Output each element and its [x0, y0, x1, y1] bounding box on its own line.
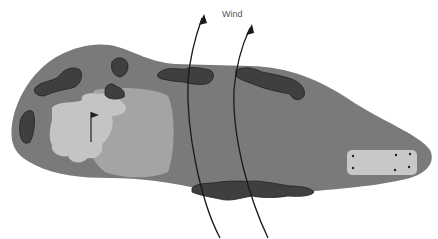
golf-hole-diagram [0, 0, 438, 239]
arrowhead-left-icon [199, 14, 207, 25]
arrowhead-right-icon [246, 24, 254, 35]
tee-box [347, 150, 417, 175]
trees-small-top [111, 58, 128, 77]
wind-label: Wind [222, 9, 243, 19]
